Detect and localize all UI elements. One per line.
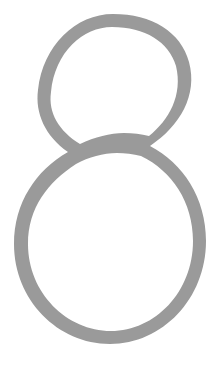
digit-eight-glyph — [0, 0, 219, 366]
glyph-canvas — [0, 0, 219, 366]
